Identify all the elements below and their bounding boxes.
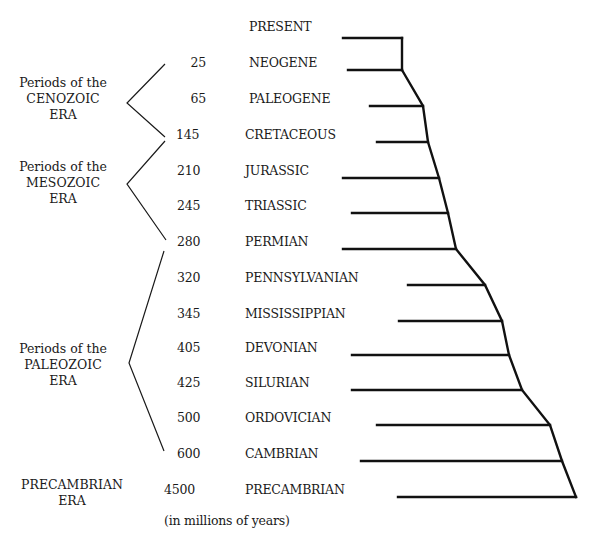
- period-mya: 65: [166, 92, 206, 106]
- era-label-line: ERA: [3, 373, 123, 389]
- period-name: PERMIAN: [245, 235, 308, 249]
- era-label-precambrian: PRECAMBRIAN ERA: [12, 477, 132, 509]
- cladogram-spine: [402, 70, 576, 497]
- period-mya: 425: [177, 376, 200, 390]
- era-label-line: ERA: [12, 493, 132, 509]
- period-name: CAMBRIAN: [245, 447, 318, 461]
- era-label-line: CENOZOIC: [3, 91, 123, 107]
- period-mya: 210: [177, 164, 200, 178]
- period-mya: 405: [177, 341, 200, 355]
- era-braces: [127, 64, 166, 451]
- period-mya: 145: [176, 128, 199, 142]
- era-label-cenozoic: Periods of the CENOZOIC ERA: [3, 75, 123, 123]
- period-name: SILURIAN: [245, 376, 309, 390]
- period-name: PALEOGENE: [249, 92, 330, 106]
- period-name: TRIASSIC: [245, 199, 307, 213]
- brace-cenozoic: [127, 64, 165, 137]
- era-label-line: MESOZOIC: [3, 175, 123, 191]
- era-label-line: PRECAMBRIAN: [12, 477, 132, 493]
- period-name: CRETACEOUS: [245, 128, 336, 142]
- period-mya: 345: [177, 307, 200, 321]
- brace-paleozoic: [129, 251, 164, 451]
- period-mya: 600: [177, 447, 200, 461]
- era-label-line: Periods of the: [3, 75, 123, 91]
- period-name: PENNSYLVANIAN: [245, 271, 359, 285]
- era-label-line: ERA: [3, 191, 123, 207]
- period-name: MISSISSIPPIAN: [245, 307, 346, 321]
- brace-mesozoic: [127, 141, 166, 240]
- era-label-line: PALEOZOIC: [3, 357, 123, 373]
- period-name: ORDOVICIAN: [245, 411, 331, 425]
- period-mya: 245: [177, 199, 200, 213]
- era-label-line: ERA: [3, 107, 123, 123]
- period-name: NEOGENE: [249, 56, 317, 70]
- present-label: PRESENT: [249, 20, 312, 34]
- cladogram-branches: [343, 38, 576, 497]
- period-mya: 4500: [164, 483, 195, 497]
- era-label-mesozoic: Periods of the MESOZOIC ERA: [3, 159, 123, 207]
- era-label-paleozoic: Periods of the PALEOZOIC ERA: [3, 341, 123, 389]
- period-name: JURASSIC: [245, 164, 309, 178]
- units-footnote: (in millions of years): [164, 514, 290, 528]
- period-name: PRECAMBRIAN: [245, 483, 345, 497]
- period-mya: 280: [177, 235, 200, 249]
- geologic-time-diagram: Periods of the CENOZOIC ERA Periods of t…: [0, 0, 600, 558]
- period-mya: 500: [177, 411, 200, 425]
- period-name: DEVONIAN: [245, 341, 317, 355]
- period-mya: 25: [166, 56, 206, 70]
- era-label-line: Periods of the: [3, 159, 123, 175]
- period-mya: 320: [177, 271, 200, 285]
- era-label-line: Periods of the: [3, 341, 123, 357]
